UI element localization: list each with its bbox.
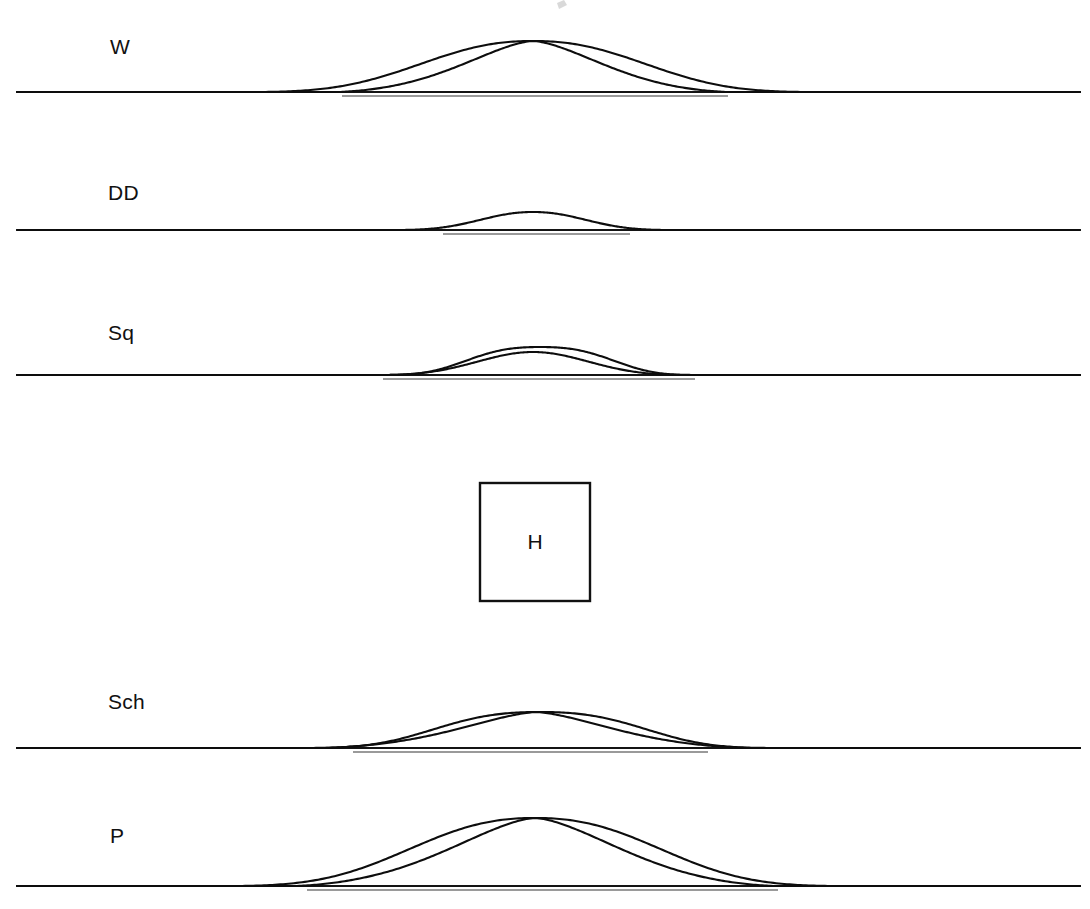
panel-label-sch: Sch xyxy=(108,690,145,713)
figure-background xyxy=(0,0,1090,909)
h-box-label: H xyxy=(527,530,542,553)
panel-label-p: P xyxy=(110,824,124,847)
panel-label-dd: DD xyxy=(108,181,139,204)
figure-root: WDDSqSchP H xyxy=(0,0,1090,909)
panel-label-w: W xyxy=(110,35,130,58)
panel-label-sq: Sq xyxy=(108,321,134,344)
profile-figure: WDDSqSchP H xyxy=(0,0,1090,909)
